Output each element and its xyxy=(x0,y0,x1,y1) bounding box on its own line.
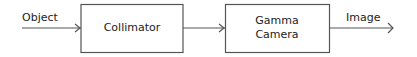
gamma-camera-label-line2: Camera xyxy=(225,28,329,42)
diagram-canvas xyxy=(0,0,417,57)
collimator-label: Collimator xyxy=(81,21,183,35)
input-label: Object xyxy=(22,12,58,24)
gamma-camera-label-line1: Gamma xyxy=(225,14,329,28)
output-label: Image xyxy=(346,12,380,24)
